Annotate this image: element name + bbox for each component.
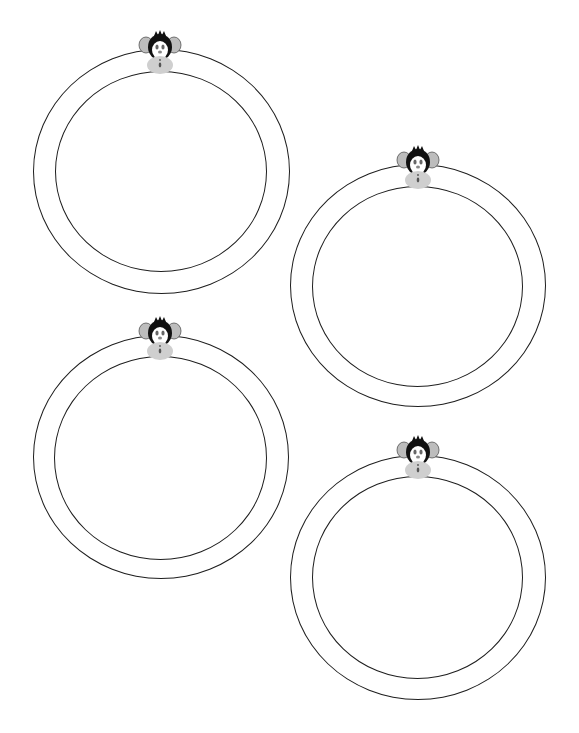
monkey-face-icon	[395, 435, 441, 481]
inner-ring-ellipse	[54, 356, 267, 560]
inner-ring-ellipse	[55, 71, 267, 272]
inner-ring-ellipse	[312, 476, 523, 679]
monkey-face-icon	[395, 145, 441, 191]
inner-ring-ellipse	[312, 186, 523, 387]
monkey-face-icon	[137, 316, 183, 362]
monkey-face-icon	[137, 30, 183, 76]
